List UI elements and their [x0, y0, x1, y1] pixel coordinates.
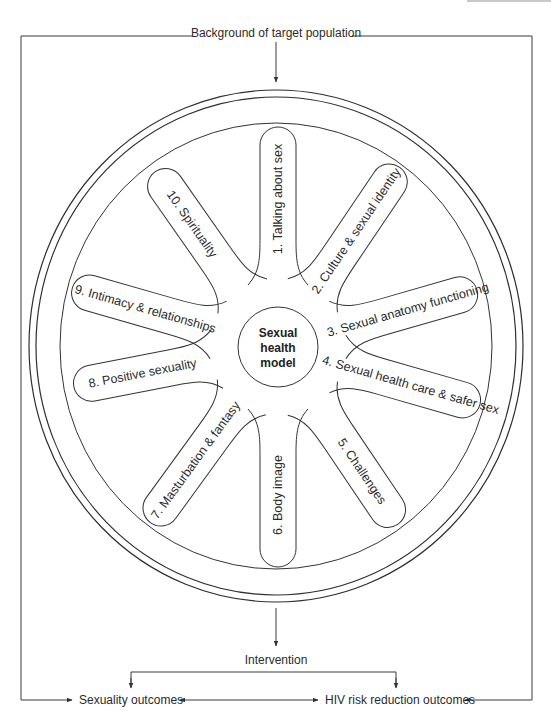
- petal-label-2: 2. Culture & sexual identity: [309, 165, 404, 297]
- petal-label-3: 3. Sexual anatomy functioning: [325, 280, 490, 340]
- petal-label-1: 1. Talking about sex: [271, 143, 285, 254]
- petal-label-8: 8. Positive sexuality: [87, 356, 198, 391]
- center-label-line-3: model: [260, 356, 295, 370]
- petal-label-4: 4. Sexual health care & safer sex: [321, 353, 502, 417]
- petal-label-7: 7. Masturbation & fantasy: [148, 398, 243, 522]
- center-label-line-2: health: [260, 341, 295, 355]
- petals: 1. Talking about sex 2. Culture & sexual…: [64, 127, 501, 567]
- petal-label-10: 10. Spirituality: [164, 188, 221, 261]
- petal-label-6: 6. Body image: [271, 455, 285, 535]
- background-of-target-population-label: Background of target population: [191, 26, 361, 40]
- outcome-branch: [131, 672, 396, 688]
- hiv-risk-reduction-outcomes-label: HIV risk reduction outcomes: [325, 693, 475, 707]
- sexual-health-model-diagram: Background of target population 1. Talki…: [0, 0, 551, 711]
- sexuality-outcomes-label: Sexuality outcomes: [79, 693, 183, 707]
- center-label-line-1: Sexual: [259, 326, 298, 340]
- petal-label-5: 5. Challenges: [335, 436, 389, 507]
- intervention-label: Intervention: [245, 653, 308, 667]
